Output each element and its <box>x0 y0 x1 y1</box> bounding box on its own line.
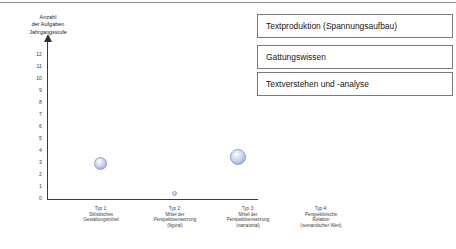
y-axis-line <box>47 41 48 199</box>
legend-item-textproduktion[interactable]: Textproduktion (Spannungsaufbau) <box>257 14 453 38</box>
y-tick-label-11: 11 <box>26 64 42 69</box>
scatter-plot-area: Anzahl der Aufgaben Jahrgangsstufe 5 12 … <box>0 8 260 249</box>
x-tick-label-typ-1: Typ 1: Stilistisches Gestaltungsmittel <box>64 206 138 223</box>
top-horizontal-rule <box>0 2 456 3</box>
y-tick-label-3: 3 <box>26 160 42 165</box>
y-tick-label-6: 6 <box>26 124 42 129</box>
y-tick-label-1: 1 <box>26 184 42 189</box>
x-tick-label-typ-4-line-4: (semantischer Wert) <box>280 223 362 229</box>
x-tick-label-typ-1-line-3: Gestaltungsmittel <box>64 217 138 223</box>
x-tick-label-typ-3-line-4: (narratorial) <box>209 223 287 229</box>
y-tick-label-12: 12 <box>26 52 42 57</box>
data-point-typ-2[interactable] <box>172 191 177 196</box>
x-tick-label-typ-2: Typ 2: Mittel der Perspektivensetzung (f… <box>138 206 212 228</box>
legend-item-textverstehen[interactable]: Textverstehen und -analyse <box>257 72 453 96</box>
y-axis-title-line-1: Anzahl <box>6 14 90 21</box>
data-point-typ-1[interactable] <box>94 157 107 170</box>
y-tick-label-0: 0 <box>26 196 42 201</box>
data-point-typ-3[interactable] <box>230 149 246 165</box>
legend-item-textverstehen-label: Textverstehen und -analyse <box>266 79 369 89</box>
legend-item-gattungswissen-label: Gattungswissen <box>266 52 326 62</box>
x-tick-label-typ-4: Typ 4: Perspektivische Relation (semanti… <box>280 206 362 228</box>
y-tick-label-8: 8 <box>26 100 42 105</box>
y-tick-label-10: 10 <box>26 76 42 81</box>
y-tick-label-2: 2 <box>26 172 42 177</box>
y-tick-label-5: 5 <box>26 136 42 141</box>
y-tick-label-9: 9 <box>26 88 42 93</box>
x-tick-label-typ-3: Typ 3: Mittel der Perspektivensetzung (n… <box>209 206 287 228</box>
y-tick-label-4: 4 <box>26 148 42 153</box>
legend: Textproduktion (Spannungsaufbau) Gattung… <box>257 14 453 96</box>
legend-item-textproduktion-label: Textproduktion (Spannungsaufbau) <box>266 21 397 31</box>
legend-item-gattungswissen[interactable]: Gattungswissen <box>257 45 453 69</box>
y-tick-label-7: 7 <box>26 112 42 117</box>
x-tick-label-typ-2-line-4: (figural) <box>138 223 212 229</box>
y-axis-title-line-2: der Aufgaben <box>6 21 90 28</box>
x-axis-line <box>47 199 258 200</box>
